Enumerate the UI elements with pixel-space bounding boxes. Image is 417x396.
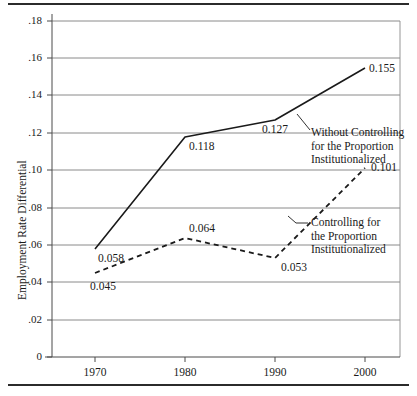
plot-canvas — [0, 0, 417, 396]
point-label-dashed-1980: 0.064 — [189, 222, 215, 234]
y-tick-label-000: 0 — [12, 351, 42, 362]
annotation-without-controlling-line-3: Institutionalized — [311, 153, 404, 167]
leader-without-controlling — [297, 114, 310, 130]
y-tick-marks — [47, 21, 52, 357]
point-label-solid-1990: 0.127 — [262, 123, 288, 135]
gridlines — [52, 21, 400, 320]
leader-controlling — [288, 216, 308, 223]
point-label-dashed-1990: 0.053 — [281, 261, 307, 273]
point-label-solid-2000: 0.155 — [369, 62, 395, 74]
annotation-controlling-line-3: Institutionalized — [311, 243, 386, 257]
y-tick-label-014: .14 — [12, 89, 42, 100]
y-tick-label-002: .02 — [12, 314, 42, 325]
y-tick-label-010: .10 — [12, 164, 42, 175]
annotation-controlling: Controlling for the Proportion Instituti… — [311, 216, 386, 257]
x-tick-label-1970: 1970 — [70, 366, 120, 378]
y-tick-label-008: .08 — [12, 202, 42, 213]
point-label-dashed-1970: 0.045 — [90, 280, 116, 292]
y-tick-label-018: .18 — [12, 15, 42, 26]
y-tick-label-016: .16 — [12, 52, 42, 63]
annotation-controlling-line-1: Controlling for — [311, 216, 386, 230]
annotation-controlling-line-2: the Proportion — [311, 230, 386, 244]
y-tick-label-012: .12 — [12, 127, 42, 138]
x-tick-marks — [95, 357, 365, 362]
y-tick-label-006: .06 — [12, 239, 42, 250]
annotation-without-controlling-line-1: Without Controlling — [311, 126, 404, 140]
figure: Employment Rate Differential .18 .16 .14… — [0, 0, 417, 396]
x-tick-label-1980: 1980 — [160, 366, 210, 378]
y-tick-label-004: .04 — [12, 276, 42, 287]
annotation-without-controlling: Without Controlling for the Proportion I… — [311, 126, 404, 167]
annotation-without-controlling-line-2: for the Proportion — [311, 140, 404, 154]
x-tick-label-1990: 1990 — [250, 366, 300, 378]
point-label-solid-1970: 0.058 — [98, 252, 124, 264]
x-tick-label-2000: 2000 — [340, 366, 390, 378]
point-label-solid-1980: 0.118 — [189, 140, 214, 152]
